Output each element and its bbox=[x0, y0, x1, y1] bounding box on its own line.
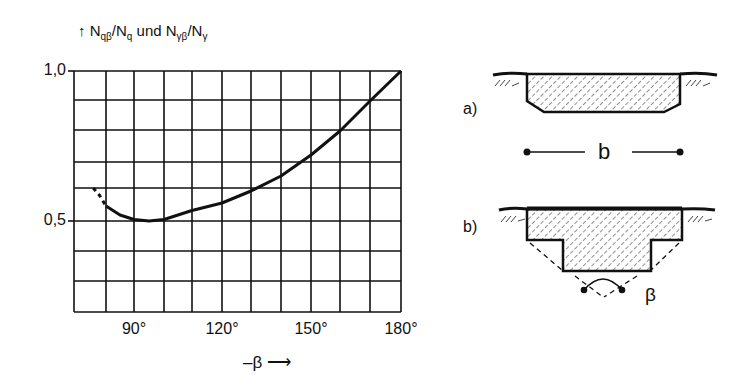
chart-plot bbox=[0, 0, 747, 386]
figure-a-label: a) bbox=[463, 100, 477, 118]
data-curve bbox=[106, 71, 401, 221]
angle-beta-label: β bbox=[645, 284, 656, 306]
figure-b-label: b) bbox=[463, 218, 477, 236]
figure-b-stepped-foundation bbox=[499, 208, 715, 297]
curve-dashed-segment bbox=[93, 188, 106, 206]
dimension-b-label: b bbox=[598, 139, 610, 165]
chart-grid bbox=[68, 71, 401, 312]
